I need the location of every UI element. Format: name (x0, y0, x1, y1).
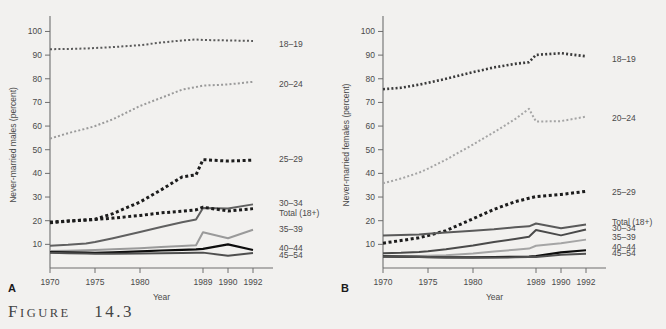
y-tick-label: 60 (366, 121, 376, 131)
y-tick-label: 10 (366, 239, 376, 249)
y-tick-label: 20 (366, 216, 376, 226)
y-tick-label: 60 (33, 121, 43, 131)
figure-caption-f: F (8, 302, 20, 321)
x-tick-label: 1990 (552, 277, 571, 287)
series-label-30-34: 30–34 (279, 198, 303, 208)
x-tick-label: 1975 (419, 277, 438, 287)
y-tick-label: 30 (33, 192, 43, 202)
y-tick-label: 70 (366, 97, 376, 107)
series-label-20-24: 20–24 (279, 79, 303, 89)
series-label-20-24: 20–24 (612, 113, 636, 123)
y-tick-label: 100 (361, 26, 375, 36)
panel-letter-b: B (341, 282, 349, 294)
y-tick-label: 20 (33, 216, 43, 226)
y-tick-label: 10 (33, 239, 43, 249)
chart-panel-b: 1020304050607080901001970197519801989199… (333, 0, 666, 300)
x-tick-label: 1992 (577, 277, 596, 287)
series-line-20-24 (383, 109, 586, 184)
y-tick-label: 40 (33, 168, 43, 178)
series-label-18-19: 18–19 (279, 39, 303, 49)
y-tick-label: 50 (366, 145, 376, 155)
series-line-30-34 (383, 229, 586, 253)
series-label-35-39: 35–39 (279, 224, 303, 234)
x-tick-label: 1970 (374, 277, 393, 287)
x-axis-title: Year (486, 292, 503, 300)
x-tick-label: 1989 (527, 277, 546, 287)
y-tick-label: 30 (366, 192, 376, 202)
series-label-25-29: 25–29 (279, 154, 303, 164)
x-tick-label: 1990 (219, 277, 238, 287)
chart-svg-females: 1020304050607080901001970197519801989199… (333, 0, 666, 300)
y-axis-title: Never-married males (percent) (8, 87, 18, 203)
x-tick-label: 1992 (244, 277, 263, 287)
series-label-18-19: 18–19 (612, 54, 636, 64)
figure-caption-word: IGURE (20, 306, 71, 320)
series-label-45-54: 45–54 (612, 248, 636, 258)
y-tick-label: 100 (28, 26, 42, 36)
y-tick-label: 90 (366, 50, 376, 60)
chart-panel-a: 1020304050607080901001970197519801989199… (0, 0, 333, 300)
y-tick-label: 90 (33, 50, 43, 60)
series-label-45-54: 45–54 (279, 250, 303, 260)
series-line-35-39 (50, 230, 253, 251)
series-line-20-24 (50, 82, 253, 139)
x-axis-title: Year (153, 292, 170, 300)
figure-caption: FIGURE 14.3 (8, 302, 134, 322)
x-tick-label: 1989 (194, 277, 213, 287)
x-tick-label: 1980 (464, 277, 483, 287)
panel-letter-a: A (8, 282, 16, 294)
series-line-18-19 (50, 40, 253, 50)
series-label-35-39: 35–39 (612, 232, 636, 242)
figure-caption-number: 14.3 (94, 302, 134, 321)
figure-container: 1020304050607080901001970197519801989199… (0, 0, 666, 329)
y-tick-label: 40 (366, 168, 376, 178)
y-tick-label: 80 (33, 74, 43, 84)
x-tick-label: 1970 (41, 277, 60, 287)
x-tick-label: 1980 (131, 277, 150, 287)
series-line-18-19 (383, 53, 586, 89)
x-tick-label: 1975 (86, 277, 105, 287)
series-label-25-29: 25–29 (612, 187, 636, 197)
y-tick-label: 80 (366, 74, 376, 84)
y-tick-label: 50 (33, 145, 43, 155)
y-axis-title: Never-married females (percent) (341, 83, 351, 206)
chart-svg-males: 1020304050607080901001970197519801989199… (0, 0, 333, 300)
series-line-total-18 (50, 207, 253, 222)
series-line-40-44 (50, 244, 253, 253)
y-tick-label: 70 (33, 97, 43, 107)
series-label-total-18: Total (18+) (279, 208, 320, 218)
series-line-45-54 (50, 253, 253, 256)
